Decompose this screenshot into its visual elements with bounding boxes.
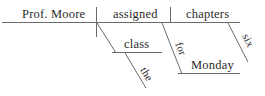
word-object-of-preposition: Monday — [191, 58, 234, 72]
sentence-diagram: Prof. Moore assigned chapters class Mond… — [0, 0, 265, 96]
word-indirect-object: class — [124, 37, 149, 51]
word-adjective-six: six — [240, 31, 257, 49]
indirect-object-slant — [97, 23, 116, 53]
word-subject: Prof. Moore — [22, 7, 86, 21]
diagram-canvas: Prof. Moore assigned chapters class Mond… — [0, 0, 265, 96]
word-direct-object: chapters — [186, 7, 229, 21]
word-preposition-for: for — [173, 40, 189, 57]
word-verb: assigned — [113, 7, 158, 21]
